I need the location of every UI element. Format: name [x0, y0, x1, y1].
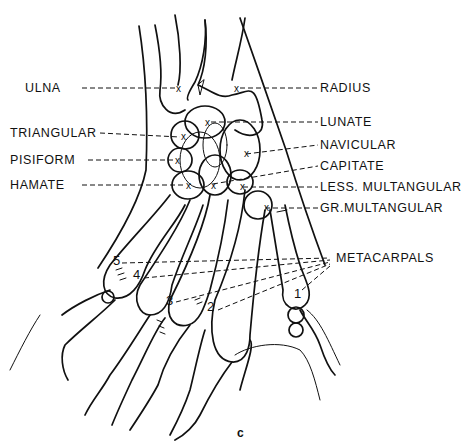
phalanx-2	[175, 362, 232, 440]
metacarpal-number-2: 2	[207, 300, 214, 313]
marker-hamate: x	[186, 180, 191, 191]
hand-bone-drawing: x x x x x x x x x x	[0, 0, 469, 441]
label-lunate: LUNATE	[320, 116, 372, 129]
metacarpal-number-1: 1	[294, 287, 301, 300]
forearm-outline-radial	[240, 18, 325, 265]
leader-navicular	[246, 145, 318, 154]
label-capitate: CAPITATE	[320, 160, 384, 173]
label-hamate: HAMATE	[10, 179, 65, 192]
anatomy-diagram: x x x x x x x x x x ULNA TRIANGULAR PISI…	[0, 0, 469, 441]
marker-pisiform: x	[175, 155, 180, 166]
label-radius: RADIUS	[320, 82, 371, 95]
label-metacarpals: METACARPALS	[336, 252, 434, 265]
marker-triangular: x	[181, 131, 186, 142]
figure-caption: c	[237, 426, 244, 440]
marker-ulna: x	[176, 83, 181, 94]
thumb-sesamoid-2	[289, 323, 303, 337]
marker-lunate: x	[205, 117, 210, 128]
label-pisiform: PISIFORM	[10, 154, 75, 167]
label-ulna: ULNA	[25, 82, 61, 95]
label-triangular: TRIANGULAR	[10, 127, 97, 140]
label-greater-multangular: GR.MULTANGULAR	[320, 202, 443, 215]
label-lesser-multangular: LESS. MULTANGULAR	[320, 181, 462, 194]
web-skin	[235, 345, 320, 400]
marker-greater-multangular: x	[264, 202, 269, 213]
marker-capitate: x	[211, 180, 216, 191]
ulna-inner	[175, 15, 180, 85]
finger-skin-5	[10, 315, 40, 370]
phalanx-5	[62, 300, 115, 380]
hatch-5	[116, 268, 126, 280]
marker-lesser-multangular: x	[240, 181, 245, 192]
marker-navicular: x	[244, 148, 249, 159]
metacarpal-1	[270, 205, 309, 309]
metacarpal-number-3: 3	[166, 294, 173, 307]
radius-inner	[232, 18, 245, 80]
phalanx-2-b	[240, 340, 251, 390]
metacarpal-2	[212, 190, 265, 362]
navicular-bone	[220, 120, 260, 180]
label-navicular: NAVICULAR	[320, 139, 396, 152]
metacarpal-number-4: 4	[133, 268, 140, 281]
leader-triangular	[100, 133, 180, 137]
hatch-2	[195, 298, 202, 304]
metacarpal-number-5: 5	[113, 254, 120, 267]
carpal-overlap-1	[203, 123, 227, 167]
marker-radius: x	[234, 83, 239, 94]
